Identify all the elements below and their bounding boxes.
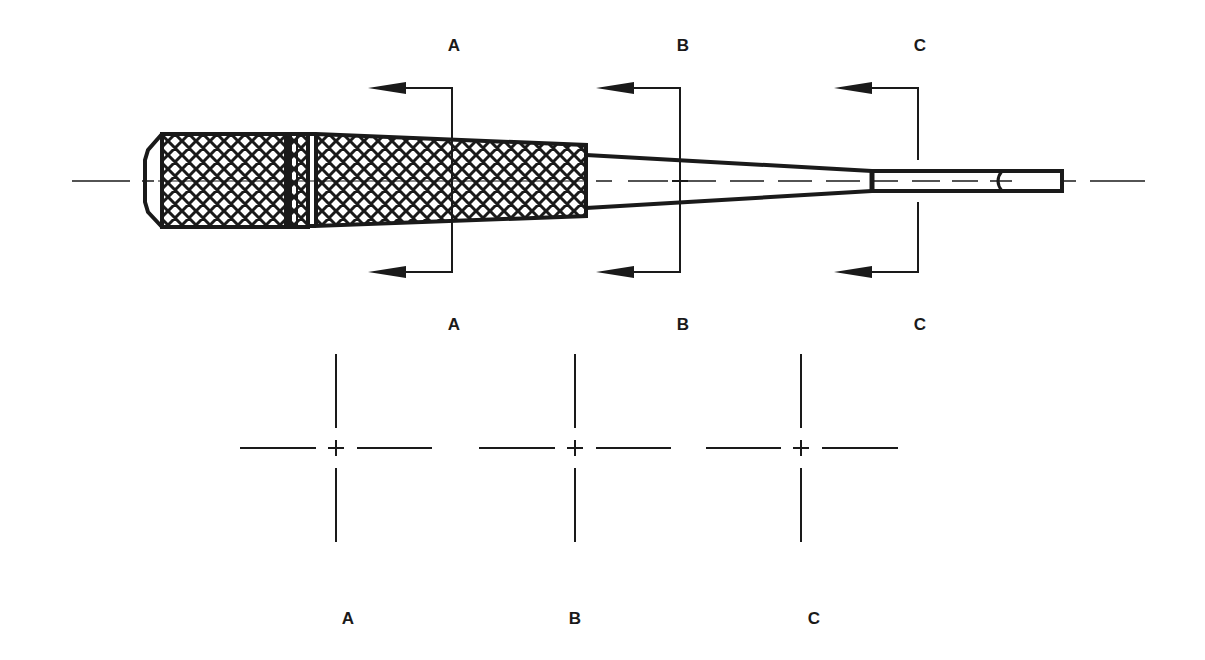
arrow-icon: [834, 82, 872, 278]
section-view-c: [706, 354, 898, 542]
section-view-label-a: A: [342, 610, 354, 627]
section-label-mid-a: A: [448, 316, 460, 333]
section-label-top-a: A: [448, 37, 460, 54]
section-view-label-c: C: [808, 610, 820, 627]
section-label-mid-c: C: [914, 316, 926, 333]
section-view-b: [479, 354, 671, 542]
section-label-mid-b: B: [677, 316, 689, 333]
knurled-handle-main: [308, 130, 588, 230]
section-view-label-b: B: [569, 610, 581, 627]
knurled-handle-front: [162, 134, 286, 227]
section-cut-c: [870, 88, 918, 272]
arrow-icon: [596, 82, 634, 278]
technical-drawing: [0, 0, 1205, 660]
section-view-a: [240, 354, 432, 542]
knurled-ring: [290, 134, 308, 227]
section-label-top-c: C: [914, 37, 926, 54]
section-label-top-b: B: [677, 37, 689, 54]
